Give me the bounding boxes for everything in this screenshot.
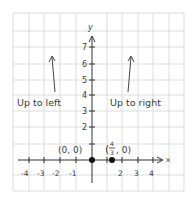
- svg-text:4: 4: [82, 91, 87, 100]
- svg-text:(: (: [105, 143, 109, 156]
- svg-text:, 0): , 0): [116, 145, 131, 155]
- svg-text:-3: -3: [37, 169, 45, 178]
- svg-text:3: 3: [82, 107, 87, 116]
- annotation-up-to-left: Up to left: [17, 97, 61, 108]
- arrow-up-left: [49, 56, 55, 92]
- svg-text:-4: -4: [21, 169, 29, 178]
- graph-sketch: x y 7 6 5 4 3 2 -4 -3 -2 -1 2 3 4 (0, 0)…: [0, 0, 193, 198]
- svg-text:4: 4: [110, 140, 114, 147]
- svg-text:5: 5: [82, 76, 87, 85]
- svg-text:7: 7: [82, 43, 87, 52]
- svg-text:-1: -1: [69, 169, 77, 178]
- svg-text:2: 2: [118, 169, 123, 178]
- annotation-up-to-right: Up to right: [110, 97, 161, 108]
- svg-text:3: 3: [134, 169, 139, 178]
- svg-text:6: 6: [82, 60, 87, 69]
- label-origin: (0, 0): [58, 145, 82, 155]
- svg-text:3: 3: [110, 149, 114, 156]
- x-tick-labels: -4 -3 -2 -1 2 3 4: [21, 169, 154, 178]
- svg-text:4: 4: [149, 169, 154, 178]
- point-four-thirds: [109, 157, 115, 163]
- svg-text:-2: -2: [52, 169, 60, 178]
- svg-text:2: 2: [82, 123, 87, 132]
- arrow-up-right: [128, 56, 134, 92]
- label-four-thirds: ( 4 3 , 0): [105, 140, 131, 156]
- y-tick-labels: 7 6 5 4 3 2: [82, 43, 87, 132]
- y-axis-label: y: [87, 23, 93, 32]
- x-axis-label: x: [166, 156, 170, 164]
- point-origin: [89, 157, 95, 163]
